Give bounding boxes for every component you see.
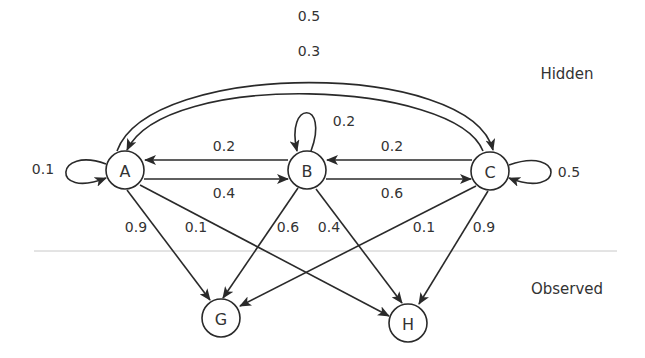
prob-b-to-a: 0.2 [213, 138, 235, 154]
node-c: C [471, 152, 509, 190]
node-c-label: C [484, 163, 495, 182]
prob-c-to-g: 0.1 [413, 219, 435, 235]
prob-a-to-g: 0.9 [125, 219, 147, 235]
prob-c-to-a: 0.3 [298, 43, 320, 59]
prob-b-self: 0.2 [333, 113, 355, 129]
node-g-label: G [215, 310, 227, 329]
prob-a-to-b: 0.4 [213, 185, 235, 201]
node-h: H [389, 304, 427, 342]
edge-a-to-c [117, 83, 493, 151]
edge-a-to-g [127, 190, 210, 300]
node-a: A [106, 151, 144, 189]
prob-c-self: 0.5 [558, 164, 580, 180]
edge-c-to-h [419, 191, 488, 304]
prob-a-to-h: 0.1 [185, 219, 207, 235]
prob-c-to-b: 0.2 [381, 138, 403, 154]
hmm-diagram: A B C G H 0.5 0.3 0.1 0.2 0.5 0.2 0.4 0.… [0, 0, 645, 358]
node-a-label: A [120, 162, 131, 181]
prob-a-self: 0.1 [32, 161, 54, 177]
prob-b-to-g: 0.6 [277, 219, 299, 235]
hidden-layer-label: Hidden [540, 65, 593, 83]
edge-c-to-g [240, 186, 476, 306]
prob-b-to-c: 0.6 [381, 185, 403, 201]
edge-b-self [295, 113, 316, 151]
edge-a-self [66, 160, 106, 183]
node-b: B [288, 151, 326, 189]
prob-a-to-c: 0.5 [298, 8, 320, 24]
prob-c-to-h: 0.9 [473, 219, 495, 235]
node-g: G [202, 299, 240, 337]
node-h-label: H [402, 315, 414, 334]
edge-c-self [509, 161, 551, 184]
node-b-label: B [302, 162, 313, 181]
observed-layer-label: Observed [531, 280, 603, 298]
prob-b-to-h: 0.4 [318, 219, 340, 235]
